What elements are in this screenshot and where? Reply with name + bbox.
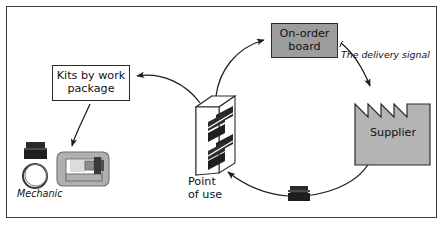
on-order-board-node[interactable]: On-order board xyxy=(271,23,338,58)
point-of-use-rack-shape xyxy=(196,96,235,175)
mechanic-label: Mechanic xyxy=(17,189,62,200)
kits-by-work-package-label: Kits by work package xyxy=(57,70,126,96)
kits-by-work-package-node[interactable]: Kits by work package xyxy=(52,65,130,101)
point-of-use-label: Point of use xyxy=(188,176,222,201)
mechanic-parts-crate xyxy=(24,142,47,159)
diagram-canvas xyxy=(0,0,445,226)
arrow-supplier-to-point-of-use-left-segment xyxy=(228,172,288,196)
delivery-signal-annotation: The delivery signal xyxy=(341,50,430,61)
arrow-kits-to-mechanic xyxy=(72,104,90,146)
on-order-board-label: On-order board xyxy=(280,28,330,53)
arrow-point-of-use-to-kits xyxy=(137,75,200,103)
diagram-figure: On-order board Kits by work package Supp… xyxy=(0,0,445,226)
arrow-point-of-use-to-on-order-board xyxy=(216,40,264,96)
mechanic-tire-ring xyxy=(23,164,47,188)
transit-parts-crate xyxy=(288,186,310,201)
supplier-label: Supplier xyxy=(356,127,430,140)
mechanic-illustration xyxy=(23,142,109,188)
mechanic-machine-body xyxy=(57,152,109,186)
